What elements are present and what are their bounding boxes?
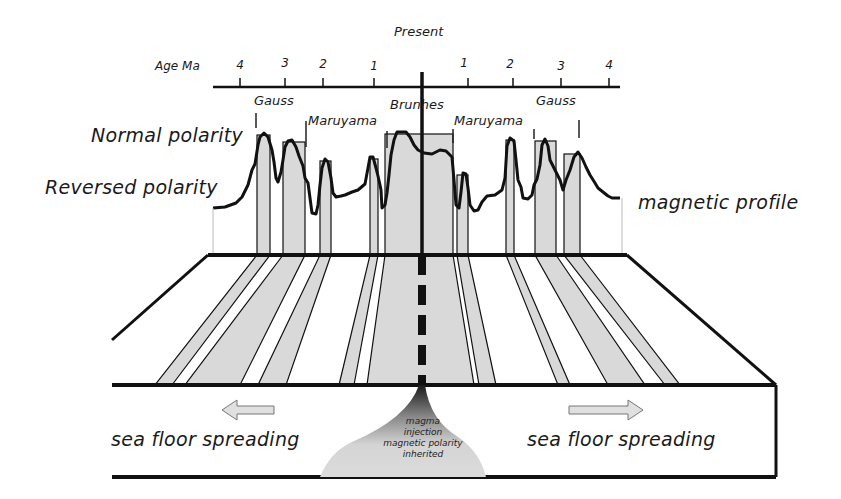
sea-floor-spreading-right-label: sea floor spreading (527, 428, 716, 450)
tick-label-right-2: 2 (506, 57, 514, 71)
profile-stripe-gauss-right-2 (535, 141, 556, 255)
time-axis (213, 78, 620, 87)
tick-label-left-1: 1 (370, 59, 378, 73)
normal-polarity-label: Normal polarity (91, 124, 243, 146)
sea-floor-stripes (155, 255, 680, 385)
profile-stripe-gauss-left-1 (257, 135, 270, 255)
reversed-polarity-label: Reversed polarity (45, 176, 218, 198)
magma-line-3: magnetic polarity (362, 438, 484, 449)
tick-label-right-4: 4 (605, 58, 613, 72)
tick-label-right-3: 3 (557, 59, 565, 73)
epoch-gauss-right: Gauss (536, 93, 576, 108)
epoch-maruyama-left: Maruyama (308, 113, 377, 128)
tick-label-left-3: 3 (281, 56, 289, 70)
magma-injection-text: magma injection magnetic polarity inheri… (362, 416, 484, 460)
sea-floor-spreading-diagram: Present Age Ma 4 3 2 1 1 2 3 4 Gauss Mar… (0, 0, 841, 499)
profile-stripe-gauss-right-3 (564, 154, 580, 255)
magma-line-1: magma (362, 416, 484, 427)
tick-label-left-2: 2 (319, 57, 327, 71)
present-label: Present (394, 24, 443, 39)
axis-ticks (240, 78, 609, 87)
magma-line-4: inherited (362, 449, 484, 460)
epoch-brunhes: Brunhes (390, 97, 444, 112)
tick-label-left-4: 4 (236, 58, 244, 72)
epoch-gauss-left: Gauss (254, 93, 294, 108)
magma-line-2: injection (362, 427, 484, 438)
arrow-left-icon (222, 400, 274, 420)
age-axis-label: Age Ma (155, 59, 200, 73)
sea-floor-spreading-left-label: sea floor spreading (111, 428, 300, 450)
arrow-right-icon (569, 400, 643, 420)
tick-label-right-1: 1 (460, 56, 468, 70)
epoch-maruyama-right: Maruyama (454, 113, 523, 128)
magnetic-profile-label: magnetic profile (638, 191, 798, 213)
